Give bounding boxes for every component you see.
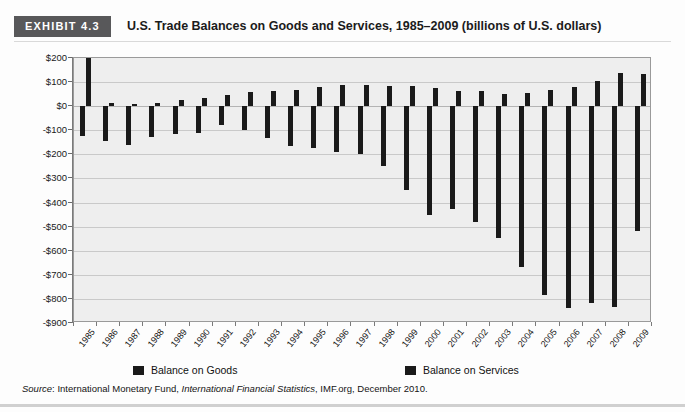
chart-bar <box>404 106 409 189</box>
chart-bar <box>572 87 577 106</box>
chart-bar <box>548 90 553 106</box>
y-axis-tick-label: -$500 <box>1 220 67 231</box>
chart-bar <box>479 91 484 106</box>
chart-bar <box>288 106 293 146</box>
x-axis-tick-label: 1998 <box>374 327 397 352</box>
gridline <box>74 251 650 252</box>
x-axis-tick-mark <box>651 322 652 326</box>
y-axis-tick-mark <box>68 129 72 130</box>
chart-bar <box>202 98 207 106</box>
chart-bar <box>519 106 524 266</box>
chart-bar <box>525 93 530 106</box>
y-axis-tick-mark <box>68 177 72 178</box>
x-axis-tick-label: 1996 <box>328 327 351 352</box>
legend-label: Balance on Services <box>423 364 519 376</box>
chart-bar <box>473 106 478 222</box>
chart-bar <box>173 106 178 134</box>
chart-bar <box>80 106 85 135</box>
x-axis-tick-label: 1995 <box>305 327 328 352</box>
y-axis-tick-mark <box>68 202 72 203</box>
page-title: U.S. Trade Balances on Goods and Service… <box>127 19 601 33</box>
y-axis-tick-mark <box>68 322 72 323</box>
x-axis-tick-mark <box>559 322 560 326</box>
legend-swatch <box>133 366 144 375</box>
x-axis-tick-mark <box>582 322 583 326</box>
y-axis-tick-label: $200 <box>1 52 67 63</box>
chart-bar <box>612 106 617 307</box>
header-divider <box>14 41 671 42</box>
chart-bar <box>155 103 160 106</box>
chart-bar <box>294 90 299 106</box>
chart-bar <box>248 92 253 106</box>
gridline <box>74 154 650 155</box>
x-axis-tick-label: 1997 <box>351 327 374 352</box>
x-axis-tick-mark <box>374 322 375 326</box>
y-axis-tick-mark <box>68 57 72 58</box>
x-axis-tick-mark <box>512 322 513 326</box>
gridline <box>74 275 650 276</box>
gridline <box>74 178 650 179</box>
chart-bar <box>410 86 415 106</box>
x-axis-tick-mark <box>119 322 120 326</box>
y-axis-tick-label: -$900 <box>1 317 67 328</box>
x-axis-tick-mark <box>628 322 629 326</box>
chart-bar <box>317 87 322 106</box>
chart-bar <box>542 106 547 295</box>
y-axis-tick-mark <box>68 105 72 106</box>
chart-bar <box>149 106 154 137</box>
y-axis-tick-mark <box>68 226 72 227</box>
chart-bar <box>109 103 114 106</box>
chart-bar <box>103 106 108 141</box>
gridline <box>74 203 650 204</box>
y-axis-tick-label: -$100 <box>1 124 67 135</box>
x-axis-tick-mark <box>420 322 421 326</box>
x-axis-tick-label: 1999 <box>397 327 420 352</box>
chart-bar <box>595 81 600 106</box>
chart-bar <box>271 91 276 106</box>
legend-label: Balance on Goods <box>151 364 237 376</box>
source-note: Source: International Monetary Fund, Int… <box>22 383 428 394</box>
x-axis-tick-label: 2001 <box>444 327 467 352</box>
x-axis-tick-label: 2009 <box>629 327 652 352</box>
x-axis-tick-mark <box>96 322 97 326</box>
chart-bar <box>132 104 137 106</box>
exhibit-tag: EXHIBIT 4.3 <box>14 16 111 37</box>
chart-bar <box>427 106 432 215</box>
x-axis-tick-label: 2005 <box>536 327 559 352</box>
y-axis-tick-label: -$600 <box>1 244 67 255</box>
chart-bar <box>242 106 247 129</box>
x-axis-tick-mark <box>189 322 190 326</box>
chart-bar <box>381 106 386 166</box>
exhibit-page: EXHIBIT 4.3 U.S. Trade Balances on Goods… <box>0 0 685 412</box>
x-axis-tick-label: 1992 <box>236 327 259 352</box>
chart-area: $200$100$0-$100-$200-$300-$400-$500-$600… <box>0 46 685 336</box>
gridline <box>74 227 650 228</box>
y-axis-tick-mark <box>68 250 72 251</box>
chart-legend: Balance on GoodsBalance on Services <box>0 364 685 378</box>
chart-bar <box>126 106 131 145</box>
chart-bar <box>387 86 392 106</box>
x-axis-tick-label: 2008 <box>606 327 629 352</box>
x-axis-tick-label: 2006 <box>559 327 582 352</box>
chart-bar <box>496 106 501 238</box>
x-axis-tick-label: 2000 <box>421 327 444 352</box>
x-axis-tick-mark <box>258 322 259 326</box>
x-axis-tick-mark <box>304 322 305 326</box>
plot-region <box>73 57 651 322</box>
y-axis-tick-label: -$700 <box>1 268 67 279</box>
y-axis-tick-label: $0 <box>1 100 67 111</box>
chart-bar <box>618 73 623 106</box>
x-axis-tick-mark <box>142 322 143 326</box>
chart-bar <box>364 85 369 107</box>
chart-bar <box>502 94 507 107</box>
y-axis-tick-label: -$300 <box>1 172 67 183</box>
chart-bar <box>225 95 230 106</box>
y-axis-tick-mark <box>68 153 72 154</box>
y-axis-tick-label: -$800 <box>1 292 67 303</box>
x-axis-tick-label: 1988 <box>143 327 166 352</box>
x-axis-tick-mark <box>350 322 351 326</box>
x-axis-tick-label: 1987 <box>120 327 143 352</box>
chart-bar <box>219 106 224 125</box>
exhibit-header: EXHIBIT 4.3 U.S. Trade Balances on Goods… <box>14 14 671 38</box>
source-publication: International Financial Statistics <box>182 383 316 394</box>
